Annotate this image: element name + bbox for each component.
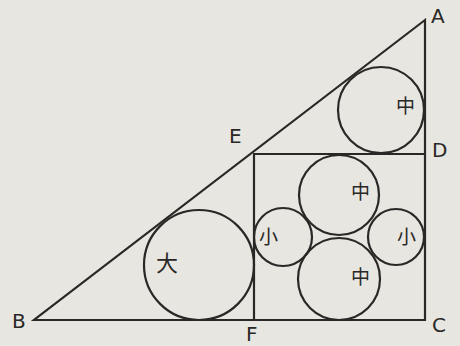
point-label-e: E [229,126,242,146]
point-label-f: F [246,324,258,344]
circle-label-small-right: 小 [397,228,416,247]
circle-label-medium-top: 中 [396,97,415,116]
diagram-canvas [0,0,460,346]
circle-label-small-left: 小 [259,228,278,247]
point-label-b: B [12,311,26,331]
point-label-a: A [431,6,445,26]
circle-label-large: 大 [156,253,178,275]
geometry-diagram: A B C D E F 大 中 中 中 小 小 [0,0,460,346]
point-label-c: C [432,315,446,335]
circle-label-medium-lower: 中 [351,268,370,287]
point-label-d: D [432,140,447,160]
circle-label-medium-upper: 中 [351,183,370,202]
